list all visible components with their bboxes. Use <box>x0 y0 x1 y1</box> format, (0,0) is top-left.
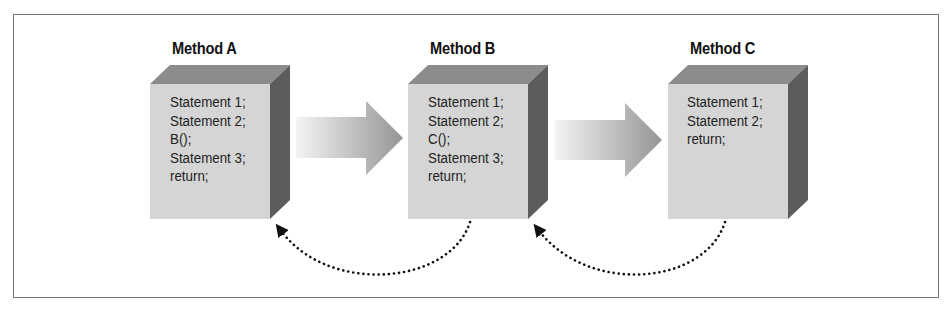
statement-line: Statement 2; <box>170 112 246 131</box>
statement-line: Statement 2; <box>428 112 504 131</box>
statement-line: B(); <box>170 130 246 149</box>
method-c-side-face <box>788 65 808 219</box>
statement-line: return; <box>428 167 504 186</box>
method-c-title: Method C <box>690 39 755 59</box>
statement-line: Statement 3; <box>428 149 504 168</box>
method-a-title: Method A <box>172 39 237 59</box>
statement-line: Statement 1; <box>428 93 504 112</box>
method-c-top-face <box>668 65 808 84</box>
method-a-statements: Statement 1; Statement 2; B(); Statement… <box>170 93 246 186</box>
method-b-top-face <box>408 65 548 84</box>
method-c-statements: Statement 1; Statement 2; return; <box>687 93 763 149</box>
statement-line: return; <box>170 167 246 186</box>
method-a-top-face <box>150 65 290 84</box>
method-b-statements: Statement 1; Statement 2; C(); Statement… <box>428 93 504 186</box>
method-b-side-face <box>528 65 548 219</box>
return-arrow-c-to-b <box>540 222 725 275</box>
call-arrow-b-to-c <box>555 103 662 177</box>
return-arrow-b-to-a <box>282 222 470 275</box>
statement-line: Statement 1; <box>687 93 763 112</box>
call-arrow-a-to-b <box>296 101 403 175</box>
method-a-side-face <box>270 65 290 219</box>
statement-line: Statement 2; <box>687 112 763 131</box>
statement-line: C(); <box>428 130 504 149</box>
method-b-title: Method B <box>430 39 495 59</box>
statement-line: return; <box>687 130 763 149</box>
statement-line: Statement 1; <box>170 93 246 112</box>
statement-line: Statement 3; <box>170 149 246 168</box>
